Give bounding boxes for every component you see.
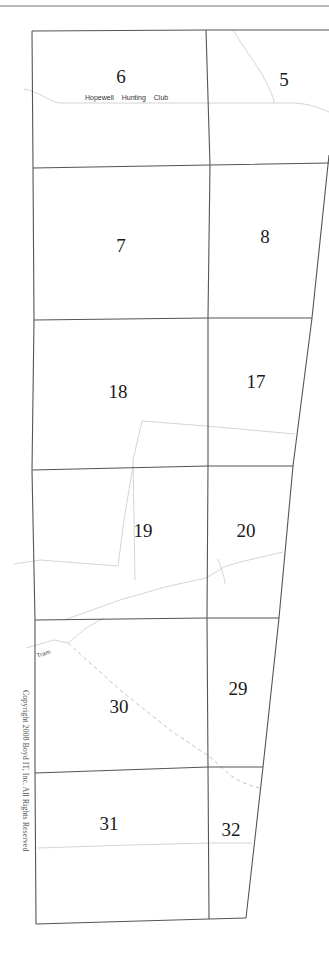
trail-dashed — [68, 643, 260, 788]
copyright-notice: Copyright 2008 Boyd IT, Inc. All Rights … — [21, 690, 30, 851]
section-map: 6 5 7 8 18 17 19 20 30 29 31 32 Hopewell… — [0, 0, 329, 956]
road-section-5 — [233, 30, 274, 103]
section-6-label: 6 — [116, 66, 126, 88]
road-hunting-club — [24, 89, 329, 112]
section-20-label: 20 — [237, 520, 256, 542]
hunting-club-label: Hopewell Hunting Club — [85, 94, 168, 101]
section-18-label: 18 — [109, 381, 128, 403]
section-19-label: 19 — [134, 520, 153, 542]
west-boundary — [32, 31, 36, 924]
south-boundary — [36, 918, 246, 924]
line-18-19 — [32, 466, 293, 470]
section-29-label: 29 — [229, 678, 248, 700]
section-8-label: 8 — [260, 226, 270, 248]
section-boundaries — [32, 30, 329, 924]
line-30-31 — [35, 767, 263, 773]
line-19-30 — [35, 618, 279, 620]
east-boundary — [246, 155, 329, 918]
middle-meridian — [206, 30, 210, 919]
section-30-label: 30 — [110, 696, 129, 718]
roads — [14, 30, 329, 848]
map-lines — [0, 0, 329, 956]
road-spur-20 — [218, 559, 225, 584]
line-7-18 — [34, 318, 312, 320]
section-5-label: 5 — [279, 69, 289, 91]
line-6-7 — [33, 163, 329, 168]
section-32-label: 32 — [222, 819, 241, 841]
section-17-label: 17 — [247, 371, 266, 393]
section-31-label: 31 — [100, 813, 119, 835]
section-7-label: 7 — [116, 235, 126, 257]
north-boundary — [32, 30, 329, 31]
road-tram — [26, 618, 104, 648]
road-section-20 — [64, 552, 283, 620]
road-section-18-19 — [133, 421, 295, 580]
road-section-31-32 — [38, 843, 252, 848]
